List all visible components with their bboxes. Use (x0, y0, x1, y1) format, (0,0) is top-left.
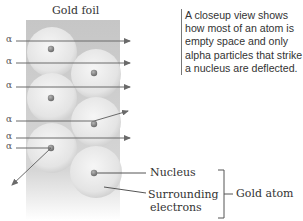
foil-label: Gold foil (52, 4, 99, 17)
rutherford-diagram: Gold foil A closeup view shows how most … (0, 0, 303, 221)
surrounding-electrons-label-line1: Surrounding (148, 188, 219, 201)
gold-atom-label: Gold atom (236, 187, 294, 200)
surrounding-electrons-label-line2: electrons (150, 201, 202, 214)
alpha-label: α (6, 141, 12, 151)
nucleus-label: Nucleus (150, 166, 196, 179)
alpha-label: α (6, 34, 12, 44)
alpha-label: α (6, 80, 12, 90)
alpha-label: α (6, 56, 12, 66)
alpha-label: α (6, 131, 12, 141)
caption-text: A closeup view shows how most of an atom… (181, 9, 303, 75)
alpha-label: α (6, 114, 12, 124)
